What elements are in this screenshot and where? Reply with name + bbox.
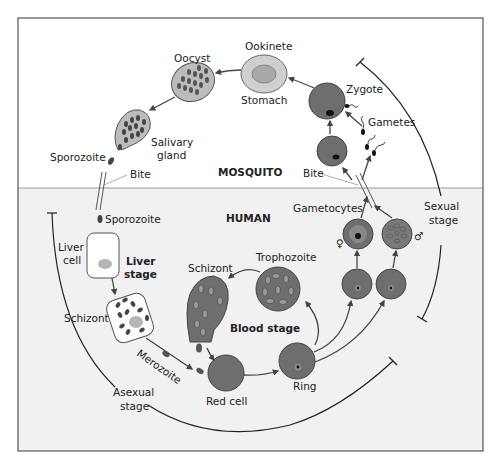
red-cell-label: Red cell — [206, 395, 247, 407]
ring-icon — [279, 343, 315, 379]
salivary-gland-label-1: Salivary — [151, 136, 193, 148]
sporozoite-human-icon — [98, 215, 103, 223]
bite-left-label: Bite — [130, 168, 151, 180]
liver-stage-label-2: stage — [124, 268, 157, 280]
ookinete-label: Ookinete — [245, 40, 292, 52]
female-gametocyte-icon — [343, 219, 373, 249]
ring-female-precursor-icon — [342, 269, 372, 299]
trophozoite-icon — [256, 267, 300, 311]
ookinete-cell-icon — [241, 55, 287, 93]
gametes-label: Gametes — [368, 116, 415, 128]
male-gametocyte-icon — [382, 219, 412, 249]
zygote-icon — [309, 83, 345, 119]
salivary-gland-label-2: gland — [157, 149, 186, 161]
trophozoite-label: Trophozoite — [255, 251, 317, 263]
mosquito-gametocyte-icon — [317, 136, 347, 166]
red-cell-icon — [208, 355, 244, 391]
sporozoite-human-label: Sporozoite — [105, 213, 161, 225]
male-symbol: ♂ — [414, 230, 423, 242]
asexual-stage-label-2: stage — [120, 400, 149, 412]
zygote-label: Zygote — [346, 83, 383, 95]
asexual-stage-label-1: Asexual — [113, 386, 154, 398]
ring-label: Ring — [293, 380, 317, 392]
oocyst-label: Oocyst — [174, 52, 210, 64]
stomach-label: Stomach — [241, 94, 287, 106]
ring-male-precursor-icon — [376, 269, 406, 299]
sexual-stage-label-2: stage — [429, 214, 458, 226]
schizont-blood-label: Schizont — [188, 262, 233, 274]
bite-right-label: Bite — [303, 167, 324, 179]
liver-cell-icon — [87, 233, 119, 278]
blood-stage-label: Blood stage — [230, 322, 300, 334]
liver-cell-label-2: cell — [63, 254, 81, 266]
sporozoite-mosquito-label: Sporozoite — [50, 151, 106, 163]
gametocytes-label: Gametocytes — [293, 202, 363, 214]
female-symbol: ♀ — [336, 237, 344, 249]
sexual-stage-label-1: Sexual — [424, 200, 459, 212]
human-label: HUMAN — [226, 212, 271, 224]
liver-cell-label-1: Liver — [58, 241, 84, 253]
liver-stage-label-1: Liver — [126, 255, 156, 267]
mosquito-label: MOSQUITO — [218, 166, 282, 178]
malaria-life-cycle-diagram: MOSQUITO HUMAN Ookinete Stomach Oocyst S… — [0, 0, 500, 466]
